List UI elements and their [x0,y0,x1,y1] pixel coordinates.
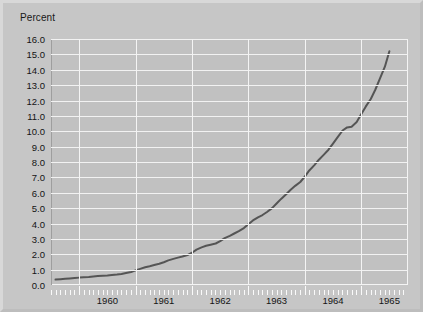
x-tick-major [305,286,306,295]
y-tick-label: 12.0 [27,95,46,106]
x-tick-major [136,286,137,295]
x-tick-major [361,286,362,295]
y-tick-label: 6.0 [32,187,45,198]
gridline-vertical [136,39,137,285]
gridline-horizontal [51,54,408,55]
x-axis-labels: 196019611962196319641965 [3,295,423,312]
y-tick-label: 9.0 [32,141,45,152]
x-tick-label: 1963 [266,295,287,306]
x-tick-label: 1962 [210,295,231,306]
x-tick-major [248,286,249,295]
x-tick-label: 1965 [379,295,400,306]
y-tick-label: 15.0 [27,49,46,60]
gridline-horizontal [51,101,408,102]
y-tick-label: 1.0 [32,264,45,275]
gridline-vertical [361,39,362,285]
gridline-vertical [79,39,80,285]
x-tick-label: 1961 [153,295,174,306]
gridline-horizontal [51,270,408,271]
gridline-horizontal [51,147,408,148]
gridline-vertical [305,39,306,285]
y-tick-label: 11.0 [27,110,45,121]
gridline-horizontal [51,39,408,40]
gridline-horizontal [51,85,408,86]
gridline-horizontal [51,193,408,194]
plot-area [51,39,408,285]
y-tick-label: 8.0 [32,157,45,168]
y-tick-label: 4.0 [32,218,45,229]
gridline-horizontal [51,239,408,240]
gridline-horizontal [51,116,408,117]
x-tick-label: 1964 [322,295,343,306]
y-tick-label: 0.0 [32,280,45,291]
y-tick-label: 10.0 [27,126,46,137]
gridline-horizontal [51,208,408,209]
gridline-horizontal [51,70,408,71]
x-tick-major [192,286,193,295]
y-tick-label: 13.0 [27,80,46,91]
y-tick-label: 5.0 [32,203,45,214]
page-title: Percent [20,12,55,23]
x-tick-label: 1960 [97,295,118,306]
y-tick-label: 16.0 [27,34,46,45]
gridline-horizontal [51,254,408,255]
y-tick-label: 14.0 [27,64,46,75]
gridline-horizontal [51,177,408,178]
y-axis: 16.015.014.013.012.011.010.09.08.07.06.0… [3,39,49,285]
x-tick-major [79,286,80,295]
gridline-horizontal [51,224,408,225]
y-tick-label: 3.0 [32,233,45,244]
gridline-horizontal [51,162,408,163]
y-tick-label: 2.0 [32,249,45,260]
y-tick-label: 7.0 [32,172,45,183]
x-axis-ticks [51,285,408,295]
chart-frame: Percent 16.015.014.013.012.011.010.09.08… [0,0,423,312]
gridline-horizontal [51,131,408,132]
gridline-vertical [192,39,193,285]
gridline-vertical [248,39,249,285]
